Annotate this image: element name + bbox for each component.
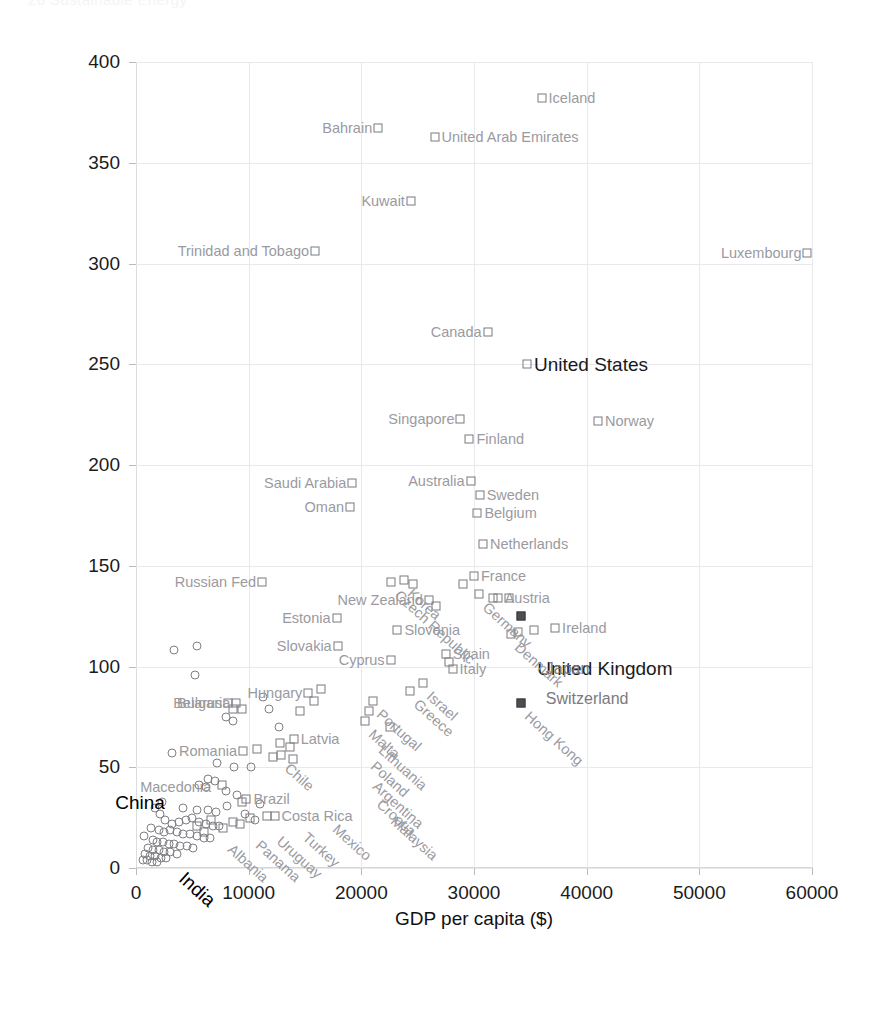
y-axis-label-wrapper: Power consumption (kWh/d/p) bbox=[40, 0, 41, 806]
data-point-circle bbox=[168, 749, 177, 758]
scatter-plot-area: 0501001502002503003504000100002000030000… bbox=[136, 62, 812, 868]
data-point-saudi-arabia bbox=[348, 479, 357, 488]
data-point-australia bbox=[466, 477, 475, 486]
y-tick-mark bbox=[129, 767, 136, 768]
y-tick-label: 100 bbox=[0, 656, 120, 678]
gridline-vertical bbox=[361, 62, 362, 868]
data-label-bahrain: Bahrain bbox=[322, 121, 372, 136]
data-point-square bbox=[458, 579, 467, 588]
data-label-finland: Finland bbox=[476, 432, 524, 447]
x-tick-mark bbox=[812, 868, 813, 875]
data-point-finland bbox=[465, 434, 474, 443]
data-label-hungary: Hungary bbox=[248, 685, 303, 700]
x-tick-label: 0 bbox=[131, 882, 142, 904]
data-point-luxembourg bbox=[803, 249, 812, 258]
x-tick-mark bbox=[474, 868, 475, 875]
data-label-austria: Austria bbox=[505, 591, 550, 606]
data-point-france bbox=[470, 571, 479, 580]
y-tick-mark bbox=[129, 163, 136, 164]
data-point-costa-rica bbox=[270, 811, 279, 820]
data-label-slovakia: Slovakia bbox=[277, 639, 332, 654]
data-point-hungary bbox=[304, 688, 313, 697]
data-label-netherlands: Netherlands bbox=[490, 536, 568, 551]
data-label-united-states: United States bbox=[534, 355, 648, 374]
x-tick-mark bbox=[699, 868, 700, 875]
data-label-iceland: Iceland bbox=[549, 91, 596, 106]
header-text: 26 Sustainable Energy bbox=[28, 0, 187, 8]
data-point-russian-fed bbox=[258, 577, 267, 586]
data-label-india: India bbox=[176, 868, 219, 910]
x-tick-label: 40000 bbox=[560, 882, 613, 904]
data-label-romania: Romania bbox=[179, 744, 237, 759]
gridline-vertical bbox=[699, 62, 700, 868]
data-label-hong-kong: Hong Kong bbox=[522, 709, 586, 768]
data-label-singapore: Singapore bbox=[388, 411, 454, 426]
data-point-singapore bbox=[456, 414, 465, 423]
data-point-slovenia bbox=[393, 626, 402, 635]
data-point-circle bbox=[223, 801, 232, 810]
data-point-circle bbox=[189, 843, 198, 852]
data-label-oman: Oman bbox=[305, 500, 345, 515]
data-point-bulgaria bbox=[232, 698, 241, 707]
data-point-sweden bbox=[475, 491, 484, 500]
data-point-square bbox=[310, 696, 319, 705]
data-label-united-arab-emirates: United Arab Emirates bbox=[442, 129, 579, 144]
y-tick-label: 50 bbox=[0, 756, 120, 778]
data-label-sweden: Sweden bbox=[487, 488, 539, 503]
data-label-brazil: Brazil bbox=[253, 792, 289, 807]
data-point-brazil bbox=[242, 795, 251, 804]
data-label-bulgaria: Bulgaria bbox=[177, 696, 230, 711]
data-point-cyprus bbox=[386, 656, 395, 665]
data-point-italy bbox=[448, 664, 457, 673]
y-tick-label: 400 bbox=[0, 51, 120, 73]
data-point-square bbox=[365, 706, 374, 715]
data-point-iceland bbox=[537, 94, 546, 103]
data-label-ireland: Ireland bbox=[562, 621, 606, 636]
y-tick-mark bbox=[129, 364, 136, 365]
data-label-australia: Australia bbox=[408, 474, 464, 489]
y-tick-mark bbox=[129, 62, 136, 63]
x-tick-label: 10000 bbox=[222, 882, 275, 904]
data-point-greece bbox=[405, 686, 414, 695]
data-point-united-kingdom bbox=[517, 612, 526, 621]
data-label-japan: Japan bbox=[546, 661, 590, 677]
data-point-circle bbox=[190, 670, 199, 679]
data-point-norway bbox=[593, 416, 602, 425]
data-point-circle bbox=[139, 831, 148, 840]
y-tick-label: 0 bbox=[0, 857, 120, 879]
y-tick-mark bbox=[129, 667, 136, 668]
data-point-united-states bbox=[522, 360, 531, 369]
data-point-circle bbox=[192, 642, 201, 651]
gridline-vertical bbox=[474, 62, 475, 868]
y-tick-mark bbox=[129, 566, 136, 567]
data-label-slovenia: Slovenia bbox=[404, 623, 460, 638]
data-point-square bbox=[296, 706, 305, 715]
data-point-circle bbox=[213, 759, 222, 768]
data-point-square bbox=[286, 743, 295, 752]
data-point-united-arab-emirates bbox=[430, 132, 439, 141]
data-label-estonia: Estonia bbox=[282, 611, 330, 626]
data-label-italy: Italy bbox=[460, 661, 487, 676]
y-tick-label: 200 bbox=[0, 454, 120, 476]
y-tick-mark bbox=[129, 868, 136, 869]
data-point-square bbox=[245, 813, 254, 822]
x-tick-label: 20000 bbox=[335, 882, 388, 904]
data-point-circle bbox=[179, 803, 188, 812]
data-point-netherlands bbox=[479, 539, 488, 548]
gridline-vertical bbox=[587, 62, 588, 868]
y-tick-label: 350 bbox=[0, 152, 120, 174]
data-point-circle bbox=[170, 646, 179, 655]
data-label-new-zealand: New Zealand bbox=[337, 593, 422, 608]
gridline-vertical bbox=[249, 62, 250, 868]
chart-page: 26 Sustainable Energy Power consumption … bbox=[0, 0, 870, 1010]
data-point-germany bbox=[474, 589, 483, 598]
data-point-bahrain bbox=[374, 124, 383, 133]
data-label-russian-fed: Russian Fed bbox=[175, 575, 256, 590]
data-point-circle bbox=[230, 763, 239, 772]
data-point-square bbox=[228, 817, 237, 826]
data-point-trinidad-and-tobago bbox=[311, 247, 320, 256]
data-point-estonia bbox=[332, 614, 341, 623]
data-point-circle bbox=[172, 849, 181, 858]
y-tick-label: 250 bbox=[0, 353, 120, 375]
data-point-square bbox=[276, 739, 285, 748]
